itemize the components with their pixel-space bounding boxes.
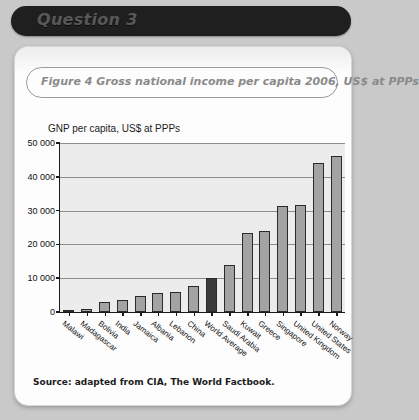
- figure-caption-pill: Figure 4 Gross national income per capit…: [26, 67, 338, 98]
- question-banner: Question 3: [11, 6, 351, 36]
- bar-lebanon: [170, 292, 181, 312]
- x-axis-tick-mark: [300, 312, 302, 316]
- bar-united-kingdom: [295, 205, 306, 312]
- x-axis-tick-mark: [105, 312, 107, 316]
- x-axis-tick-mark: [229, 312, 231, 316]
- x-axis-tick-mark: [176, 312, 178, 316]
- bar-albania: [152, 293, 163, 312]
- bar-india: [117, 300, 128, 313]
- bar-kuwait: [242, 233, 253, 312]
- source-note: Source: adapted from CIA, The World Fact…: [33, 377, 275, 387]
- x-axis-tick-mark: [283, 312, 285, 316]
- x-axis-tick-mark: [265, 312, 267, 316]
- x-axis-tick-mark: [336, 312, 338, 316]
- bar-jamaica: [135, 296, 146, 312]
- question-banner-label: Question 3: [37, 10, 138, 29]
- chart-bars: [60, 143, 345, 312]
- bar-norway: [331, 156, 342, 312]
- x-axis-tick-mark: [318, 312, 320, 316]
- y-axis-tick-label: 40 000: [27, 172, 55, 182]
- y-axis-tick-label: 20 000: [27, 239, 55, 249]
- chart-plot-area: 010 00020 00030 00040 00050 000: [59, 143, 345, 313]
- bar-world-average: [206, 278, 217, 312]
- y-axis-tick-label: 10 000: [27, 273, 55, 283]
- y-axis-tick-label: 0: [50, 307, 55, 317]
- x-axis-tick-mark: [211, 312, 213, 316]
- x-axis-tick-mark: [194, 312, 196, 316]
- x-axis-tick-mark: [122, 312, 124, 316]
- x-axis-tick-mark: [87, 312, 89, 316]
- chart-title: GNP per capita, US$ at PPPs: [48, 123, 180, 134]
- x-axis-tick-mark: [69, 312, 71, 316]
- y-axis-tick-label: 50 000: [27, 138, 55, 148]
- figure-caption-text: Figure 4 Gross national income per capit…: [41, 75, 419, 88]
- figure-card: Figure 4 Gross national income per capit…: [14, 46, 352, 406]
- bar-united-states: [313, 163, 324, 312]
- bar-bolivia: [99, 302, 110, 312]
- bar-singapore: [277, 206, 288, 312]
- y-axis-tick-label: 30 000: [27, 206, 55, 216]
- x-axis-tick-mark: [247, 312, 249, 316]
- chart-x-axis-labels: MalawiMadagascarBoliviaIndiaJamaicaAlban…: [59, 319, 345, 385]
- x-axis-tick-mark: [140, 312, 142, 316]
- bar-greece: [259, 231, 270, 312]
- bar-china: [188, 286, 199, 312]
- bar-saudi-arabia: [224, 265, 235, 312]
- x-axis-tick-mark: [158, 312, 160, 316]
